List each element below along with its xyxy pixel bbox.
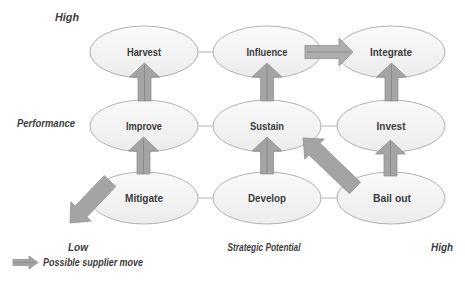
node-develop-label: Develop (248, 192, 286, 204)
node-improve-label: Improve (126, 120, 162, 132)
y-axis-high-label: High (55, 11, 79, 23)
node-integrate-label: Integrate (370, 46, 412, 58)
x-axis-high-label: High (431, 241, 453, 253)
x-axis-label: Strategic Potential (228, 241, 302, 253)
node-invest-label: Invest (377, 120, 406, 132)
node-harvest-label: Harvest (127, 46, 161, 58)
node-sustain-label: Sustain (250, 120, 284, 132)
diagram-svg: Harvest Influence Integrate Improve Sust… (0, 0, 465, 284)
supplier-strategy-diagram: Harvest Influence Integrate Improve Sust… (0, 0, 465, 284)
node-influence-label: Influence (247, 46, 288, 58)
node-mitigate-label: Mitigate (125, 192, 163, 204)
y-axis-label: Performance (17, 117, 75, 129)
node-bailout-label: Bail out (373, 192, 411, 204)
legend-label: Possible supplier move (43, 256, 143, 268)
y-axis-low-label: Low (68, 241, 89, 253)
